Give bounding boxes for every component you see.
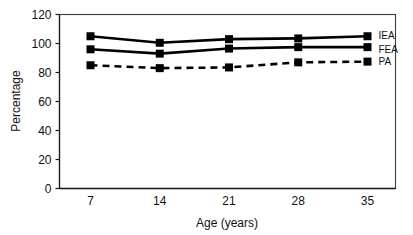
y-tick-label: 100 <box>31 37 51 51</box>
data-point-marker-iea <box>87 32 95 40</box>
data-point-marker-fea <box>225 45 233 53</box>
y-tick-label: 80 <box>38 66 52 80</box>
x-tick-label: 14 <box>153 194 167 208</box>
line-chart-figure: 020406080100120 714212835 IEAFEAPA Age (… <box>0 0 413 235</box>
legend-label-iea: IEA <box>379 30 395 41</box>
data-point-marker-fea <box>87 45 95 53</box>
y-tick-label: 0 <box>45 182 52 196</box>
y-tick-label: 120 <box>31 8 51 22</box>
chart-canvas: 020406080100120 714212835 IEAFEAPA Age (… <box>0 0 413 235</box>
x-tick-label: 28 <box>292 194 306 208</box>
data-point-marker-iea <box>156 39 164 47</box>
data-point-marker-iea <box>294 34 302 42</box>
x-axis-title: Age (years) <box>196 216 258 230</box>
data-point-marker-pa <box>87 61 95 69</box>
data-point-marker-pa <box>225 63 233 71</box>
y-axis-title: Percentage <box>9 70 23 132</box>
data-point-marker-iea <box>364 32 372 40</box>
chart-background <box>0 0 413 235</box>
legend-label-pa: PA <box>379 56 392 67</box>
y-tick-label: 60 <box>38 95 52 109</box>
data-point-marker-iea <box>225 35 233 43</box>
y-tick-label: 40 <box>38 124 52 138</box>
y-tick-label: 20 <box>38 153 52 167</box>
legend-label-fea: FEA <box>379 44 399 55</box>
data-point-marker-fea <box>156 50 164 58</box>
data-point-marker-fea <box>294 43 302 51</box>
data-point-marker-fea <box>364 43 372 51</box>
x-tick-label: 21 <box>222 194 236 208</box>
data-point-marker-pa <box>364 58 372 66</box>
data-point-marker-pa <box>294 58 302 66</box>
x-tick-label: 7 <box>87 194 94 208</box>
data-point-marker-pa <box>156 64 164 72</box>
x-tick-label: 35 <box>361 194 375 208</box>
